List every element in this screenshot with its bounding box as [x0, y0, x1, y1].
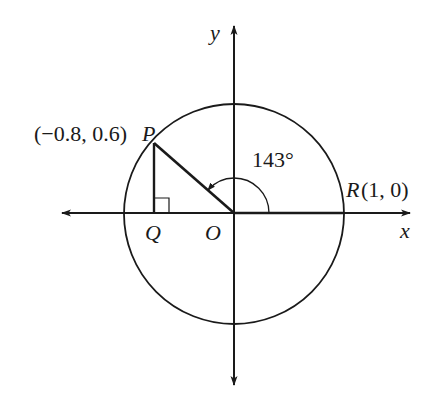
unit-circle-diagram: y x (−0.8, 0.6) P Q O R (1, 0) 143° [0, 0, 438, 399]
y-axis-label: y [208, 20, 220, 45]
point-P-coords: (−0.8, 0.6) [34, 121, 127, 146]
point-Q-label: Q [145, 220, 161, 245]
point-R-coords: (1, 0) [361, 177, 409, 202]
segment-OP [154, 143, 234, 213]
point-R-label: R [345, 177, 360, 202]
right-angle-marker [154, 198, 169, 213]
x-axis-label: x [399, 218, 410, 243]
point-P-label: P [141, 121, 155, 146]
origin-label: O [205, 220, 221, 245]
angle-label: 143° [252, 147, 294, 172]
angle-arc [208, 178, 269, 213]
